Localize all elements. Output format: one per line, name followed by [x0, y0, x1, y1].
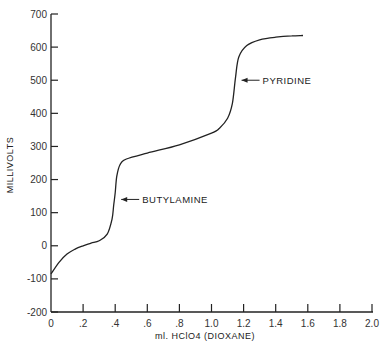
x-tick-label: .6	[143, 318, 152, 329]
x-tick-label: 2.0	[365, 318, 379, 329]
y-tick-label: -100	[27, 273, 47, 284]
x-tick-label: .4	[111, 318, 120, 329]
axes: 7006005004003002001000-100-200 0.2.4.6.8…	[27, 9, 379, 330]
x-tick-label: 1.4	[269, 318, 283, 329]
titration-curve	[51, 36, 303, 274]
y-tick-label: 400	[30, 108, 47, 119]
x-tick-label: .8	[175, 318, 184, 329]
x-tick-label: .2	[79, 318, 88, 329]
arrow-left-icon	[242, 78, 248, 83]
y-tick-label: 200	[30, 174, 47, 185]
x-ticks: 0.2.4.6.81.01.21.41.61.82.0	[48, 304, 379, 329]
y-axis-title: MILLIVOLTS	[5, 137, 15, 193]
annotation-label: PYRIDINE	[263, 75, 312, 86]
x-tick-label: 1.6	[301, 318, 315, 329]
y-tick-label: 700	[30, 9, 47, 20]
y-tick-label: 500	[30, 75, 47, 86]
x-tick-label: 1.0	[205, 318, 219, 329]
y-tick-label: 100	[30, 207, 47, 218]
y-tick-label: 600	[30, 42, 47, 53]
y-tick-label: 0	[41, 240, 47, 251]
x-tick-label: 0	[48, 318, 54, 329]
y-tick-label: 300	[30, 141, 47, 152]
annotation-pyridine: PYRIDINE	[242, 75, 312, 86]
annotation-butylamine: BUTYLAMINE	[121, 194, 208, 205]
annotation-label: BUTYLAMINE	[142, 194, 208, 205]
y-tick-label: -200	[27, 307, 47, 318]
x-axis-title: ml. HClO4 (DIOXANE)	[155, 331, 255, 341]
annotations: BUTYLAMINEPYRIDINE	[121, 75, 311, 205]
x-tick-label: 1.8	[333, 318, 347, 329]
x-tick-label: 1.2	[237, 318, 251, 329]
arrow-left-icon	[121, 197, 127, 202]
titration-chart: 7006005004003002001000-100-200 0.2.4.6.8…	[0, 0, 390, 351]
